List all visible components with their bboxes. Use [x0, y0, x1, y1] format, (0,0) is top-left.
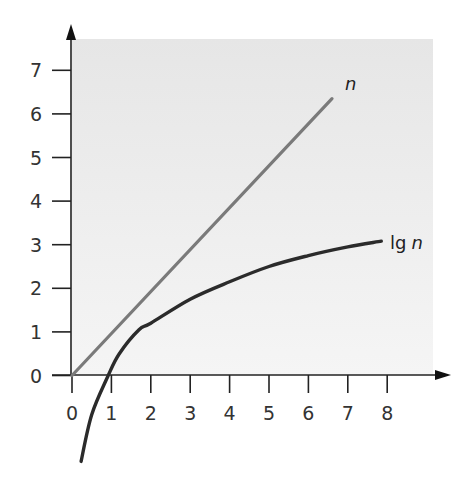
- x-tick-label: 2: [145, 402, 157, 424]
- y-axis-arrow-icon: [66, 24, 76, 40]
- y-axis-ticks: 01234567: [30, 59, 71, 386]
- x-axis-arrow-icon: [435, 370, 451, 380]
- x-tick-label: 0: [66, 402, 78, 424]
- x-tick-label: 8: [381, 402, 393, 424]
- x-tick-label: 3: [184, 402, 196, 424]
- plot-background: [72, 39, 433, 375]
- y-tick-label: 3: [30, 234, 42, 256]
- y-tick-label: 4: [30, 190, 42, 212]
- y-tick-label: 2: [30, 277, 42, 299]
- x-tick-label: 5: [263, 402, 275, 424]
- y-tick-label: 0: [30, 365, 42, 387]
- y-tick-label: 5: [30, 147, 42, 169]
- x-axis-ticks: 012345678: [66, 375, 393, 424]
- x-tick-label: 6: [302, 402, 314, 424]
- y-tick-label: 6: [30, 103, 42, 125]
- series-label-n: n: [345, 73, 356, 94]
- y-tick-label: 1: [30, 321, 42, 343]
- x-tick-label: 1: [105, 402, 117, 424]
- x-tick-label: 4: [224, 402, 236, 424]
- series-label-lg-n: lgn: [390, 232, 423, 253]
- chart: 01234567 012345678 n lgn: [0, 0, 469, 482]
- y-tick-label: 7: [30, 59, 42, 81]
- x-tick-label: 7: [342, 402, 354, 424]
